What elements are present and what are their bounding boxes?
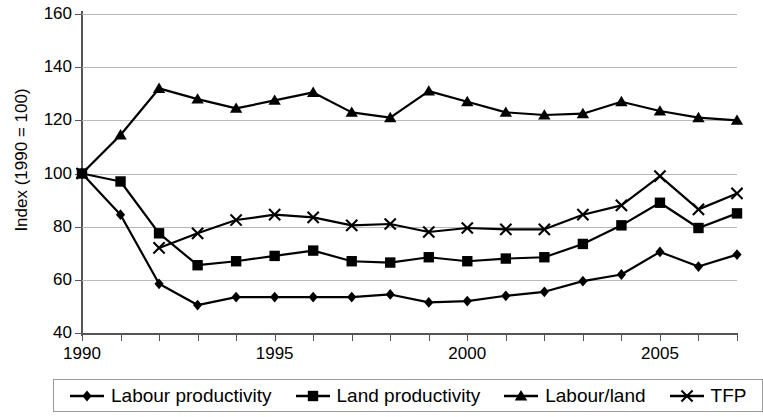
data-point <box>153 242 164 253</box>
data-point <box>540 286 549 297</box>
data-point <box>307 87 319 97</box>
data-point <box>578 276 587 287</box>
data-point <box>654 171 665 182</box>
data-point <box>731 188 742 199</box>
legend-item: TFP <box>668 386 747 406</box>
data-point <box>539 252 549 262</box>
data-point <box>693 204 704 215</box>
data-point <box>501 290 510 301</box>
data-point <box>423 85 435 95</box>
data-point <box>424 252 434 262</box>
data-point <box>269 251 279 261</box>
data-point <box>192 260 202 270</box>
cross-marker-icon <box>668 386 706 406</box>
data-point <box>115 176 125 186</box>
diamond-marker-icon <box>68 386 106 406</box>
legend: Labour productivityLand productivityLabo… <box>53 379 763 412</box>
data-point <box>153 83 165 93</box>
legend-item: Labour productivity <box>68 386 272 406</box>
square-marker-icon <box>294 386 332 406</box>
series-line <box>159 176 737 248</box>
legend-label: Labour/land <box>545 386 645 405</box>
legend-label: Labour productivity <box>111 386 272 405</box>
data-point <box>347 256 357 266</box>
triangle-marker-icon <box>502 386 540 406</box>
series-line <box>82 88 737 173</box>
data-point <box>655 198 665 208</box>
data-point <box>617 269 626 280</box>
data-point <box>693 223 703 233</box>
data-point <box>578 239 588 249</box>
data-point <box>308 245 318 255</box>
data-point <box>732 249 741 260</box>
data-point <box>347 292 356 303</box>
data-point <box>154 228 164 238</box>
legend-label: TFP <box>711 386 747 405</box>
legend-items: Labour productivityLand productivityLabo… <box>54 380 762 411</box>
data-point <box>616 220 626 230</box>
data-point <box>615 96 627 106</box>
data-point <box>501 253 511 263</box>
data-point <box>386 289 395 300</box>
data-point <box>463 296 472 307</box>
series-tfp <box>76 168 742 254</box>
data-point <box>462 256 472 266</box>
data-point <box>732 208 742 218</box>
series-line <box>82 174 737 266</box>
legend-item: Land productivity <box>294 386 481 406</box>
series-labour-land <box>76 83 743 178</box>
legend-label: Land productivity <box>337 386 481 405</box>
legend-item: Labour/land <box>502 386 645 406</box>
data-point <box>232 292 241 303</box>
data-point <box>270 292 279 303</box>
data-point <box>192 228 203 239</box>
data-point <box>694 261 703 272</box>
data-point <box>309 292 318 303</box>
data-point <box>424 297 433 308</box>
series-land-productivity <box>77 168 742 270</box>
data-point <box>193 300 202 311</box>
data-point <box>655 247 664 258</box>
data-point <box>231 256 241 266</box>
data-point <box>346 106 358 116</box>
data-point <box>385 257 395 267</box>
